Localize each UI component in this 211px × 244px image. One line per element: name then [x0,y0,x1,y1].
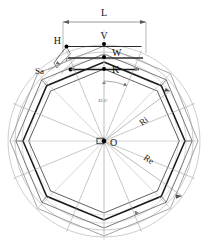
point-H-dot [65,45,69,49]
angle-arc [104,81,127,86]
spoke-nw [38,74,104,142]
angle-label: 22.5° [98,98,108,103]
point-K-dot [102,67,106,71]
sa-arrow [56,61,60,64]
point-V-label: V [100,30,108,41]
ray-wnw [13,104,104,142]
dimension-L-arrow-right [140,20,146,24]
ray-wsw [13,141,104,179]
thickness-Sa-label: Sa [35,66,44,76]
point-W-label: W [112,47,122,58]
point-O-label: O [110,137,117,148]
angle-annotation: 22.5° [98,81,127,103]
point-V-dot [102,42,106,46]
radius-Ri-leader: Ri [104,88,170,141]
dimension-L-label: L [101,7,107,18]
spoke-sw [38,141,104,209]
technical-drawing-figure: 22.5° L [0,0,211,244]
spoke-se [104,141,170,209]
point-W-dot [102,55,106,59]
marker-points [65,42,107,144]
radius-Re-label: Re [142,152,156,166]
point-H-label: H [54,35,61,46]
dimension-L-arrow-left [63,20,69,24]
fillet-arc-outer [54,47,67,63]
point-K-label: K [112,64,120,75]
Ri-line [104,91,170,141]
spoke-ne [104,74,170,142]
radius-Ri-label: Ri [137,114,150,127]
octagon-geometry-svg: 22.5° L [0,0,211,244]
